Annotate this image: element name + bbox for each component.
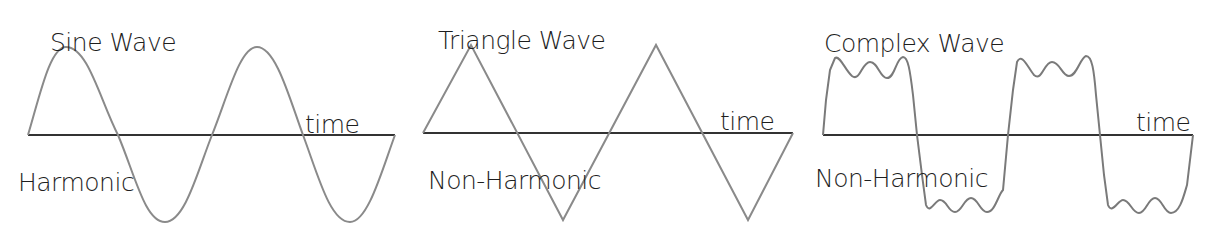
triangle-classification: Non-Harmonic (428, 168, 601, 193)
sine-axis-label: time (305, 112, 359, 137)
complex-classification: Non-Harmonic (815, 166, 988, 191)
sine-classification: Harmonic (18, 170, 134, 195)
complex-axis-label: time (1136, 110, 1190, 135)
triangle-axis-label: time (720, 109, 774, 134)
complex-title: Complex Wave (824, 31, 1004, 56)
sine-title: Sine Wave (50, 30, 176, 55)
triangle-title: Triangle Wave (438, 28, 605, 53)
